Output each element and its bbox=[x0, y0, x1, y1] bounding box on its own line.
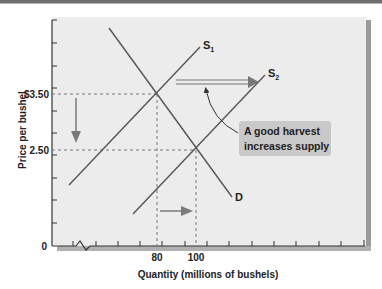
y-axis-title: Price per bushel bbox=[17, 91, 28, 169]
x-tick-label-100: 100 bbox=[188, 252, 205, 263]
supply-demand-chart: A good harvest increases supply S1 S2 D … bbox=[0, 0, 382, 289]
d-label: D bbox=[235, 191, 243, 203]
plot-shadow-right bbox=[366, 20, 371, 251]
x-axis-title: Quantity (millions of bushels) bbox=[138, 269, 279, 280]
origin-label: 0 bbox=[41, 241, 47, 252]
callout-line-2: increases supply bbox=[244, 140, 329, 152]
y-tick-label-250: 2.50 bbox=[30, 145, 50, 156]
x-tick-label-80: 80 bbox=[151, 252, 163, 263]
plot-shadow-bottom bbox=[57, 246, 371, 251]
callout-line-1: A good harvest bbox=[244, 125, 321, 137]
